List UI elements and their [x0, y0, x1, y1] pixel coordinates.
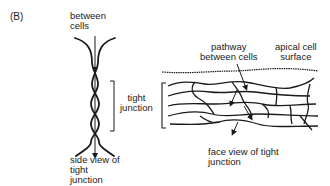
tight-junction-network — [168, 78, 318, 130]
side-view-bracket — [110, 81, 114, 131]
face-view-bracket — [162, 83, 166, 128]
diagram-graphics — [0, 0, 330, 186]
pathway-arrow-4 — [233, 122, 238, 133]
pathway-arrow-1 — [237, 64, 246, 88]
